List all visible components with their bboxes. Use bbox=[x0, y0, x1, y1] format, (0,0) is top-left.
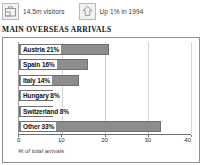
stat-visitors: 14.5m visitors bbox=[2, 3, 65, 20]
chart-bar-row: Other 33% bbox=[19, 121, 191, 132]
chart-bar-row: Spain 16% bbox=[19, 59, 191, 70]
chart-bar-row: Switzerland 8% bbox=[19, 106, 191, 117]
axis-tick-label: 0 bbox=[17, 137, 20, 143]
chart-bar-row: Austria 21% bbox=[19, 44, 191, 55]
axis-tick-label: 30 bbox=[144, 137, 151, 143]
axis-tick-label: 10 bbox=[58, 137, 65, 143]
header-stats-row: 14.5m visitors Up 1% in 1994 bbox=[0, 0, 204, 21]
gridline bbox=[191, 42, 192, 134]
stat-growth-label: Up 1% in 1994 bbox=[100, 8, 144, 15]
chart-bar-label: Italy 14% bbox=[21, 76, 52, 85]
chart-bar-label: Spain 16% bbox=[21, 60, 57, 69]
chart-x-axis: 010203040 bbox=[18, 134, 191, 147]
arrow-up-icon bbox=[79, 3, 96, 20]
page-title: MAIN OVERSEAS ARRIVALS bbox=[2, 25, 204, 34]
chart-bars: Austria 21%Spain 16%Italy 14%Hungary 8%S… bbox=[19, 42, 191, 134]
chart-bar-label: Other 33% bbox=[21, 122, 56, 131]
axis-tick-label: 40 bbox=[184, 137, 191, 143]
chart-bar-row: Hungary 8% bbox=[19, 90, 191, 101]
chart-bar-label: Austria 21% bbox=[21, 45, 61, 54]
chart-bar-label: Hungary 8% bbox=[21, 91, 62, 100]
chart-plot-area: Austria 21%Spain 16%Italy 14%Hungary 8%S… bbox=[18, 42, 191, 134]
stat-visitors-label: 14.5m visitors bbox=[23, 8, 65, 15]
chart-x-axis-caption: % of total arrivals bbox=[18, 148, 193, 154]
chart-bar-label: Switzerland 8% bbox=[21, 107, 71, 116]
suitcase-icon bbox=[2, 3, 19, 20]
chart-container: Austria 21%Spain 16%Italy 14%Hungary 8%S… bbox=[2, 37, 200, 163]
stat-growth: Up 1% in 1994 bbox=[79, 3, 144, 20]
axis-tick-label: 20 bbox=[101, 137, 108, 143]
chart-bar-row: Italy 14% bbox=[19, 75, 191, 86]
